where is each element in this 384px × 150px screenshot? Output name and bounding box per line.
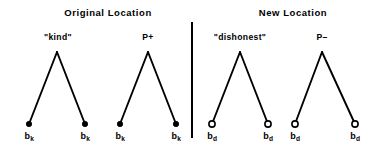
leaf-label-base: b (171, 131, 177, 141)
leaf-label-subscript: k (30, 135, 34, 142)
leaf-label-bd: bd (350, 132, 360, 141)
tree-branch-dishonest (240, 52, 268, 124)
leaf-label-subscript: d (356, 135, 360, 142)
tree-branch-p-minus (322, 52, 355, 124)
leaf-label-base: b (115, 131, 121, 141)
leaf-label-subscript: k (86, 135, 90, 142)
leaf-label-bk: bk (115, 132, 124, 141)
panel-title-new-location: New Location (259, 8, 327, 18)
leaf-label-base: b (290, 131, 296, 141)
leaf-label-subscript: d (213, 135, 217, 142)
leaf-label-subscript: d (269, 135, 273, 142)
leaf-label-bd: bd (207, 132, 217, 141)
leaf-label-base: b (350, 131, 356, 141)
tree-branch-p-plus (148, 52, 176, 124)
apex-label-kind: "kind" (44, 33, 72, 42)
apex-label-dishonest: "dishonest" (214, 33, 267, 42)
figure-canvas: Original Location New Location "kind" P+… (0, 0, 384, 150)
apex-label-p-minus: P– (316, 33, 327, 42)
tree-diagram-graphics (0, 0, 384, 150)
filled-leaf-node-p-plus (173, 121, 178, 126)
leaf-label-bk: bk (80, 132, 89, 141)
apex-label-p-plus: P+ (142, 33, 153, 42)
leaf-label-bk: bk (171, 132, 180, 141)
leaf-label-bk: bk (24, 132, 33, 141)
leaf-label-bd: bd (290, 132, 300, 141)
filled-leaf-node-kind (26, 121, 31, 126)
hollow-leaf-node-p-minus (352, 121, 358, 127)
tree-branch-kind (57, 52, 85, 124)
leaf-label-base: b (24, 131, 30, 141)
tree-branch-p-minus (295, 52, 322, 124)
hollow-leaf-node-dishonest (209, 121, 215, 127)
leaf-label-base: b (80, 131, 86, 141)
leaf-label-bd: bd (263, 132, 273, 141)
hollow-leaf-node-p-minus (292, 121, 298, 127)
tree-branch-kind (29, 52, 57, 124)
leaf-label-base: b (207, 131, 213, 141)
tree-branch-dishonest (212, 52, 240, 124)
leaf-label-subscript: k (177, 135, 181, 142)
filled-leaf-node-kind (82, 121, 87, 126)
panel-title-original-location: Original Location (64, 8, 151, 18)
hollow-leaf-node-dishonest (265, 121, 271, 127)
tree-branch-p-plus (120, 52, 148, 124)
leaf-label-subscript: d (296, 135, 300, 142)
filled-leaf-node-p-plus (117, 121, 122, 126)
leaf-label-subscript: k (121, 135, 125, 142)
leaf-label-base: b (263, 131, 269, 141)
